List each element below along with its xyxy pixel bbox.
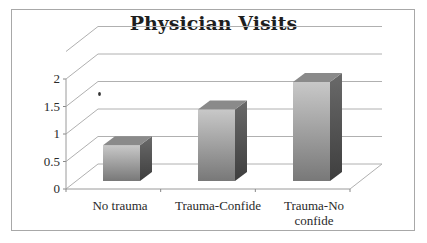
x-category-label: No trauma <box>92 198 147 213</box>
x-category-label: confide <box>295 213 334 228</box>
chart-plot-area: 00.511.52No traumaTrauma-ConfideTrauma-N… <box>0 0 427 243</box>
x-category-label: Trauma-No <box>284 198 344 213</box>
bar-2 <box>198 101 247 182</box>
y-tick-label: 0 <box>54 181 61 196</box>
y-tick-label: 1 <box>54 126 61 141</box>
x-category-label: Trauma-Confide <box>175 198 261 213</box>
y-tick-label: 0.5 <box>44 154 60 169</box>
annotation-dot <box>98 92 101 96</box>
bar-3 <box>293 73 342 181</box>
bars-group <box>103 73 342 181</box>
bar-1 <box>103 136 152 181</box>
y-tick-label: 1.5 <box>44 99 60 114</box>
y-tick-label: 2 <box>54 71 61 86</box>
